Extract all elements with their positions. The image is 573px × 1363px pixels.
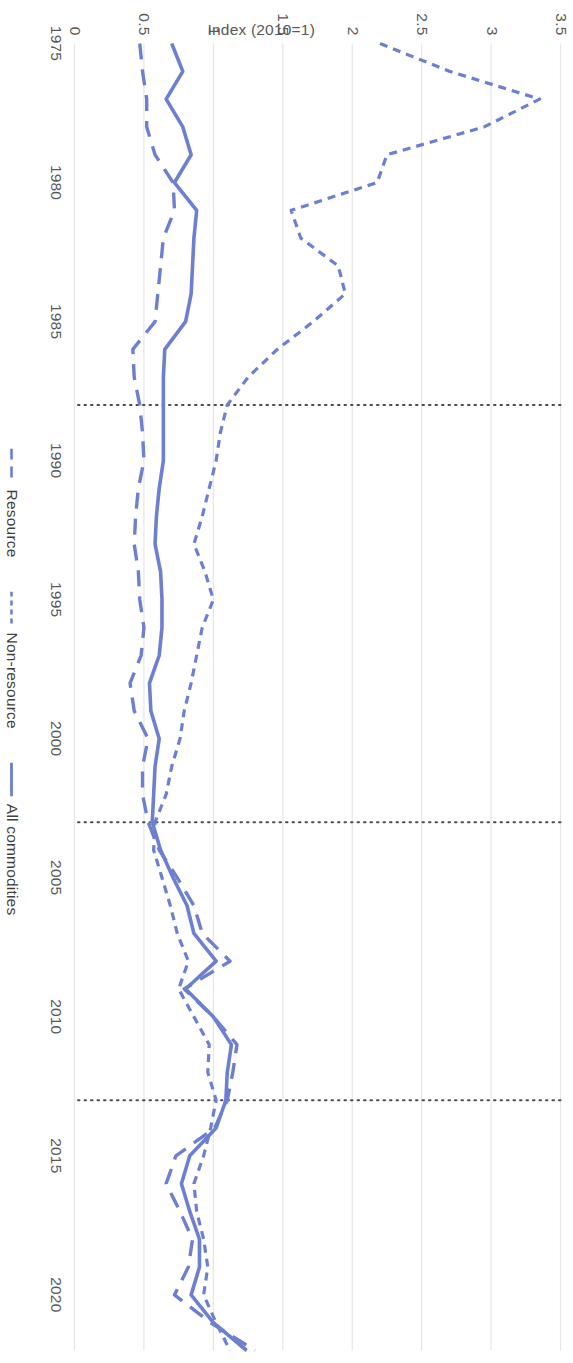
y-tick-3: 3 xyxy=(482,3,500,35)
x-tick-2000: 2000 xyxy=(46,721,64,756)
chart-page: 1975198019851990199520002005201020152020… xyxy=(0,0,573,1363)
gridlines xyxy=(74,43,560,1350)
legend-item-resource: Resource xyxy=(2,448,20,557)
x-tick-1975: 1975 xyxy=(46,25,64,60)
x-tick-1995: 1995 xyxy=(46,582,64,617)
y-axis-title: Index (2010=1) xyxy=(207,20,315,38)
legend-label-all-commodities: All commodities xyxy=(2,803,20,915)
x-tick-2015: 2015 xyxy=(46,1138,64,1173)
x-tick-2020: 2020 xyxy=(46,1277,64,1312)
dashed-short-swatch xyxy=(6,591,16,625)
legend-item-non-resource: Non-resource xyxy=(2,591,20,728)
y-tick-3.5: 3.5 xyxy=(551,3,569,35)
y-tick-2: 2 xyxy=(343,3,361,35)
x-tick-1980: 1980 xyxy=(46,164,64,199)
x-tick-2005: 2005 xyxy=(46,860,64,895)
chart-svg xyxy=(74,43,560,1350)
series-lines xyxy=(130,43,540,1350)
chart-legend: Resource Non-resource All commodities xyxy=(2,0,20,1363)
y-tick-0.5: 0.5 xyxy=(134,3,152,35)
solid-line-swatch xyxy=(6,762,16,796)
series-line-non-resource xyxy=(153,43,539,1350)
legend-label-resource: Resource xyxy=(2,489,20,557)
x-tick-1985: 1985 xyxy=(46,303,64,338)
y-tick-2.5: 2.5 xyxy=(412,3,430,35)
plot-area: 1975198019851990199520002005201020152020… xyxy=(74,43,560,1350)
y-tick-0: 0 xyxy=(65,3,83,35)
x-tick-2010: 2010 xyxy=(46,999,64,1034)
series-line-all-commodities xyxy=(149,43,246,1350)
commodity-price-index-chart: 1975198019851990199520002005201020152020… xyxy=(0,0,573,1363)
x-tick-1990: 1990 xyxy=(46,442,64,477)
legend-item-all-commodities: All commodities xyxy=(2,762,20,915)
dashed-long-swatch xyxy=(6,448,16,482)
legend-label-non-resource: Non-resource xyxy=(2,632,20,728)
